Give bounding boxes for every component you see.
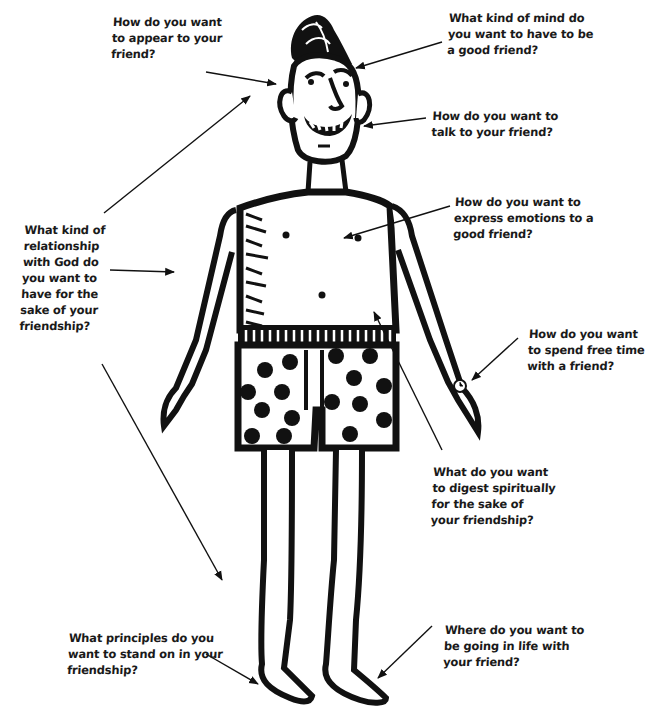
label-talk: How do you want to talk to your friend? — [431, 108, 558, 140]
label-going: Where do you want to be going in life wi… — [443, 622, 585, 670]
label-principles: What principles do you want to stand on … — [67, 630, 224, 678]
polka-dot-boxer-shorts — [238, 345, 396, 448]
torso — [240, 192, 396, 330]
label-appear: How do you want to appear to your friend… — [111, 14, 224, 62]
label-free-time: How do you want to spend free time with … — [527, 326, 646, 374]
arrow-god-arm — [110, 270, 174, 272]
label-mind: What kind of mind do you want to have to… — [447, 10, 595, 58]
arrow-god-head — [104, 96, 250, 213]
neck — [308, 160, 346, 192]
arrow-going — [378, 626, 432, 678]
arrow-god-foot — [102, 364, 222, 580]
legs — [261, 450, 386, 703]
arrow-talk — [364, 118, 426, 126]
label-digest: What do you want to digest spiritually f… — [430, 464, 557, 528]
label-god-relationship: What kind of relationship with God do yo… — [19, 222, 106, 334]
arrow-mind — [356, 42, 442, 68]
head — [280, 55, 370, 161]
arrow-free-time — [472, 338, 518, 380]
label-emotions: How do you want to express emotions to a… — [453, 194, 595, 242]
arrow-appear — [206, 72, 276, 84]
